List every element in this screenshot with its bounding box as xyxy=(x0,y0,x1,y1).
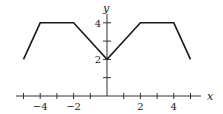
axes: −4−224 24 x y xyxy=(16,2,214,112)
y-tick-labels: 24 xyxy=(95,18,101,66)
x-axis-label: x xyxy=(207,90,214,103)
y-tick-label: 2 xyxy=(95,54,101,65)
x-tick-label: 2 xyxy=(137,101,143,112)
piecewise-linear-graph: −4−224 24 x y xyxy=(0,0,223,114)
x-tick-label: −4 xyxy=(33,101,48,112)
x-tick-label: −2 xyxy=(66,101,81,112)
x-tick-label: 4 xyxy=(171,101,177,112)
y-tick-label: 4 xyxy=(95,18,101,29)
y-axis-label: y xyxy=(102,2,110,15)
x-tick-labels: −4−224 xyxy=(33,101,177,112)
